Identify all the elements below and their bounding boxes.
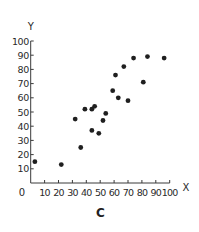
data-point [101,118,106,123]
y-tick-label: 10 [18,163,30,174]
data-point [92,104,97,109]
data-point [126,98,131,103]
data-point [73,117,78,122]
data-point [32,159,37,164]
x-tick-label: 70 [123,187,134,198]
x-tick-label: 30 [67,187,78,198]
data-point [131,56,136,61]
data-point [116,95,121,100]
x-tick-label: 80 [137,187,148,198]
x-tick-label: 50 [95,187,106,198]
x-tick-label: 90 [151,187,162,198]
data-point [78,145,83,150]
x-tick-label: 100 [162,187,178,198]
x-tick-label: 20 [53,187,64,198]
x-tick-label: 10 [39,187,50,198]
x-tick-label: 60 [109,187,120,198]
data-point [110,88,115,93]
scatter-plot: 1020304050607080901001020304050607080901… [0,0,199,232]
data-point [96,131,101,136]
data-point [89,128,94,133]
data-point [103,111,108,116]
data-point [113,73,118,78]
data-point [121,64,126,69]
data-point [59,162,64,167]
y-tick-label: 40 [18,121,30,132]
y-tick-label: 100 [12,36,29,47]
y-tick-label: 90 [18,50,30,61]
data-point [145,54,150,59]
y-tick-label: 80 [18,64,30,75]
y-axis-label: Y [27,21,35,32]
data-point [141,80,146,85]
y-tick-label: 60 [18,92,30,103]
x-tick-label: 40 [81,187,92,198]
y-tick-label: 70 [18,78,30,89]
origin-label: 0 [19,187,25,198]
y-tick-label: 50 [18,107,30,118]
x-axis-label: X [183,182,190,193]
data-point [83,107,88,112]
figure-caption: C [96,206,105,220]
y-tick-label: 20 [18,149,30,160]
y-tick-label: 30 [18,135,30,146]
data-point [162,56,167,61]
